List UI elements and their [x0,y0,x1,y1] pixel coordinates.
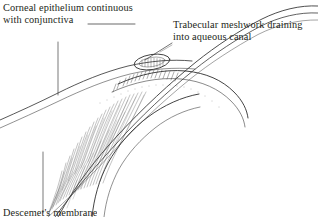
label-corneal-epithelium: Corneal epithelium continuouswith conjun… [3,2,133,25]
label-trabecular-meshwork-line1: Trabecular meshwork draining [173,19,302,30]
label-bottom-cutoff: Descemet's membrane [3,207,97,217]
corneal-stroma-inner-line [55,13,318,217]
leader-line-trabecular-meshwork [145,43,172,60]
corneal-endothelium-line [48,20,318,217]
label-corneal-epithelium-line2: with conjunctiva [3,14,74,25]
label-trabecular-meshwork-line2: into aqueous canal [173,31,251,42]
anatomy-figure: Corneal epithelium continuouswith conjun… [0,0,318,217]
ciliary-body-fibers [48,92,146,215]
label-trabecular-meshwork: Trabecular meshwork draininginto aqueous… [173,19,302,42]
label-corneal-epithelium-line1: Corneal epithelium continuous [3,2,133,13]
